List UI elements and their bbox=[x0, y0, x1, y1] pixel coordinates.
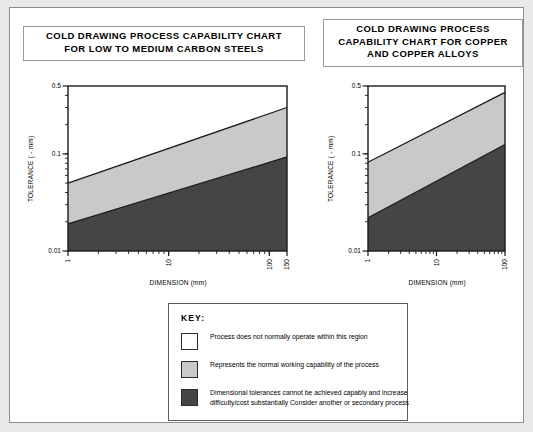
chart-title-line: COLD DRAWING PROCESS bbox=[324, 23, 522, 36]
y-tick-label: 0.01 bbox=[48, 247, 61, 254]
x-tick-label: 150 bbox=[283, 259, 290, 270]
chart-title-carbon-steels: COLD DRAWING PROCESS CAPABILITY CHART FO… bbox=[23, 26, 305, 61]
legend-title: KEY: bbox=[181, 313, 205, 323]
chart-title-line: FOR LOW TO MEDIUM CARBON STEELS bbox=[24, 43, 304, 56]
page-root: COLD DRAWING PROCESS CAPABILITY CHART FO… bbox=[0, 0, 533, 432]
y-axis-title: TOLERANCE ( - mm) bbox=[327, 136, 334, 202]
chart-plot-area-carbon-steels: 0.010.10.5110100150 bbox=[23, 74, 305, 289]
chart-plot-area-copper-alloys: 0.010.10.5110100 bbox=[323, 74, 523, 289]
chart-title-line: COLD DRAWING PROCESS CAPABILITY CHART bbox=[24, 30, 304, 43]
x-tick-label: 10 bbox=[433, 259, 440, 267]
chart-title-line: AND COPPER ALLOYS bbox=[324, 48, 522, 61]
x-tick-label: 10 bbox=[165, 259, 172, 267]
y-tick-label: 0.1 bbox=[52, 150, 61, 157]
y-tick-label: 0.5 bbox=[352, 82, 361, 89]
x-tick-label: 100 bbox=[266, 259, 273, 270]
chart-copper-alloys: TOLERANCE ( - mm) 0.010.10.5110100 DIMEN… bbox=[323, 74, 523, 289]
x-tick-label: 100 bbox=[501, 259, 508, 270]
x-axis-title: DIMENSION (mm) bbox=[150, 279, 207, 286]
x-axis-title: DIMENSION (mm) bbox=[409, 279, 466, 286]
legend-item-label: Represents the normal working capability… bbox=[210, 360, 410, 370]
y-tick-label: 0.1 bbox=[352, 150, 361, 157]
diagram-panel: COLD DRAWING PROCESS CAPABILITY CHART FO… bbox=[9, 7, 524, 423]
y-axis-title: TOLERANCE ( - mm) bbox=[27, 136, 34, 202]
chart-title-line: CAPABILITY CHART FOR COPPER bbox=[324, 36, 522, 49]
x-tick-label: 1 bbox=[64, 259, 71, 263]
legend-item-label: Dimensional tolerances cannot be achieve… bbox=[210, 388, 410, 407]
chart-title-copper-alloys: COLD DRAWING PROCESS CAPABILITY CHART FO… bbox=[323, 19, 523, 67]
legend-swatch-outside-region bbox=[181, 333, 198, 350]
legend-swatch-normal-capability bbox=[181, 361, 198, 378]
chart-carbon-steels: TOLERANCE ( - mm) 0.010.10.5110100150 DI… bbox=[23, 74, 305, 289]
y-tick-label: 0.01 bbox=[348, 247, 361, 254]
legend-key-box: KEY: Process does not normally operate w… bbox=[168, 303, 408, 421]
y-tick-label: 0.5 bbox=[52, 82, 61, 89]
legend-swatch-difficult-region bbox=[181, 389, 198, 406]
x-tick-label: 1 bbox=[364, 259, 371, 263]
legend-item-label: Process does not normally operate within… bbox=[210, 332, 410, 342]
